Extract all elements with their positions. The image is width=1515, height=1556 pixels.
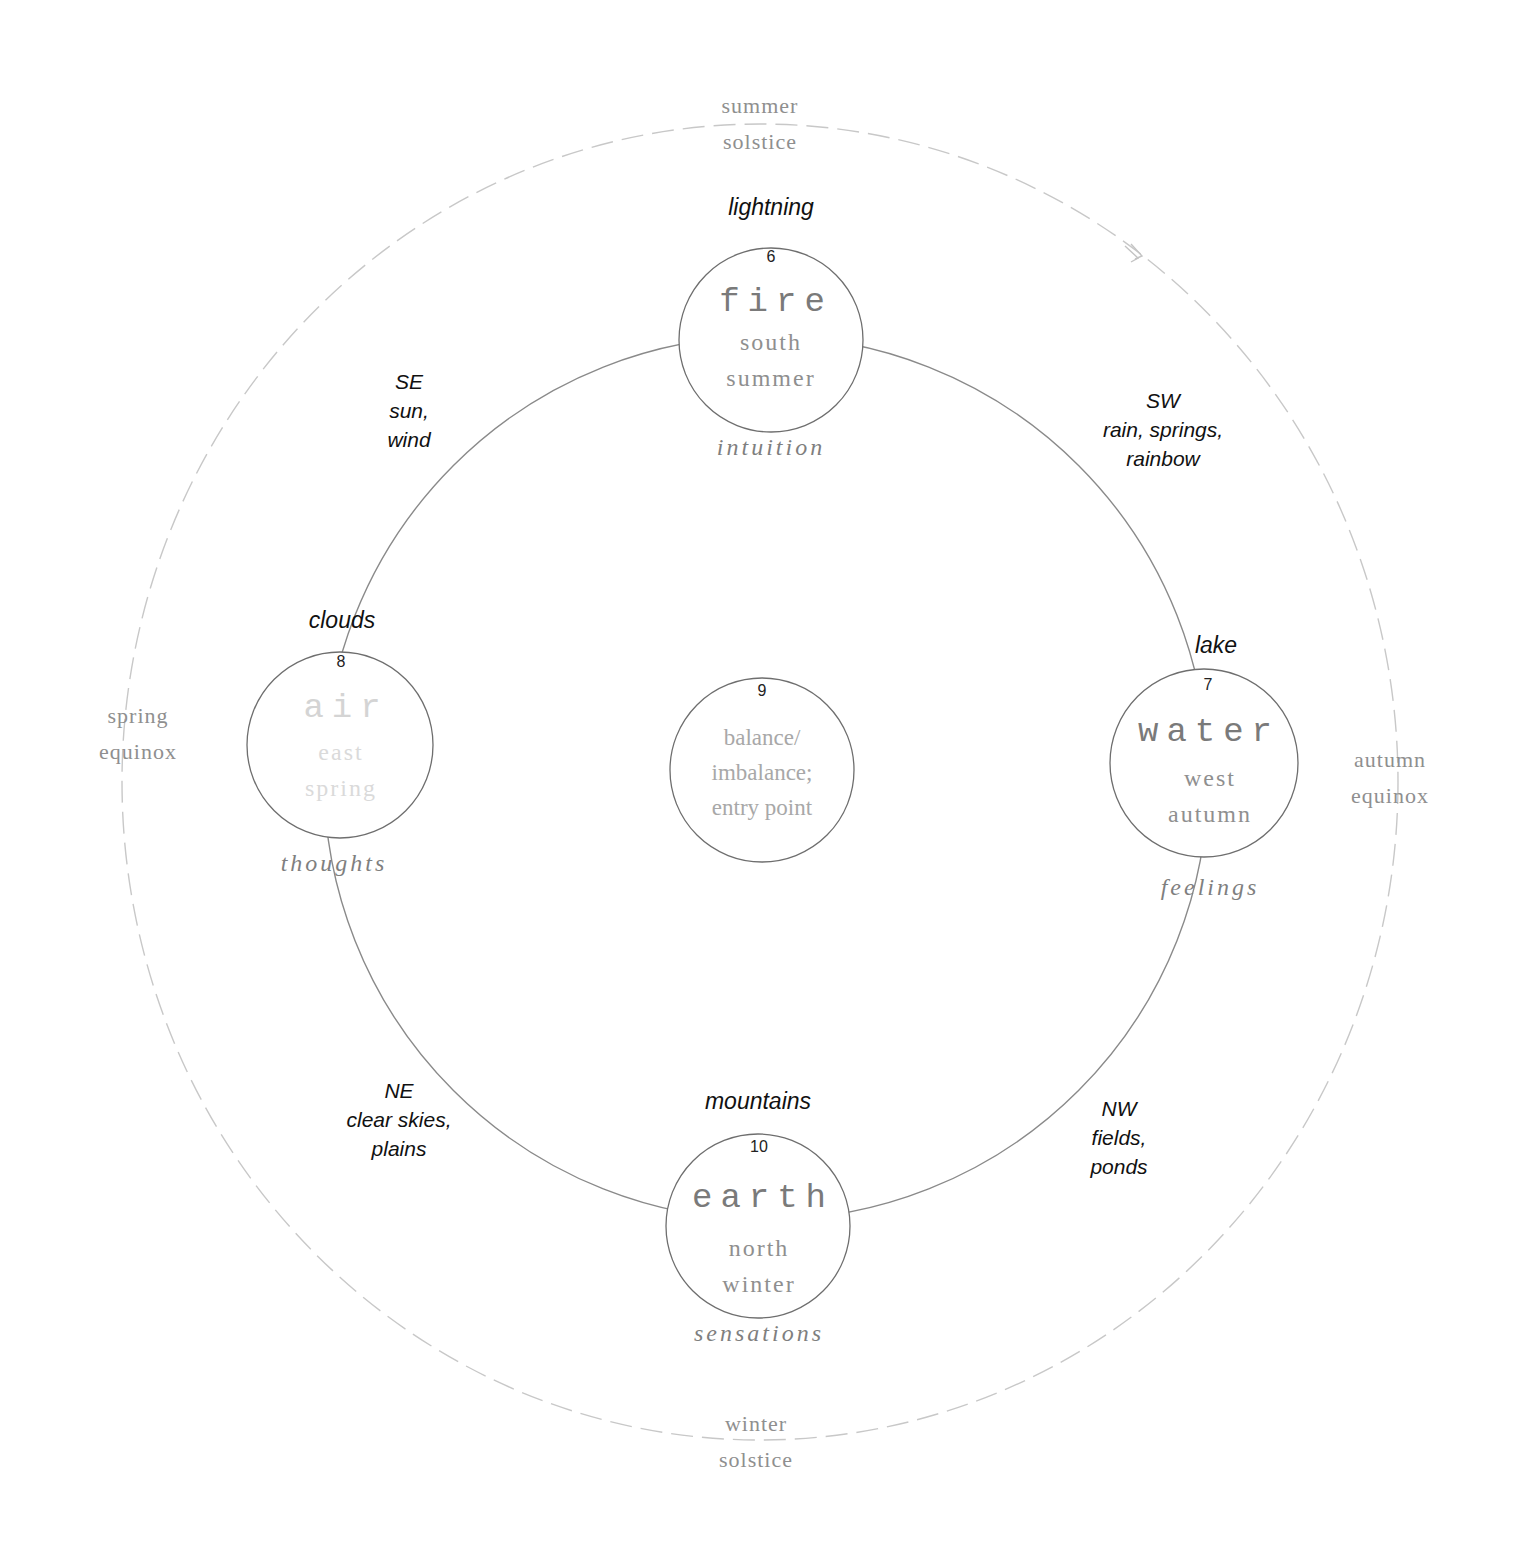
label-line: solstice bbox=[696, 1442, 816, 1478]
direction-line: fields, bbox=[1069, 1123, 1169, 1152]
earth-node-number: 10 bbox=[739, 1138, 779, 1156]
air-direction-label: east bbox=[261, 734, 421, 770]
ne-label: NE clear skies, plains bbox=[329, 1076, 469, 1163]
center-line: balance/ bbox=[682, 720, 842, 755]
water-function-label: feelings bbox=[1130, 874, 1290, 901]
direction-code: NE bbox=[329, 1076, 469, 1105]
fire-element-label: fire bbox=[691, 282, 861, 322]
direction-line: plains bbox=[329, 1134, 469, 1163]
direction-line: rain, springs, bbox=[1083, 415, 1243, 444]
label-line: equinox bbox=[1330, 778, 1450, 814]
fire-feature-label: lightning bbox=[696, 194, 846, 221]
label-line: winter bbox=[696, 1406, 816, 1442]
summer-solstice-label: summer solstice bbox=[700, 88, 820, 160]
earth-element-label: earth bbox=[668, 1178, 858, 1218]
air-function-label: thoughts bbox=[254, 850, 414, 877]
air-element-label: air bbox=[261, 688, 431, 728]
direction-line: wind bbox=[349, 425, 469, 454]
earth-season-label: winter bbox=[679, 1266, 839, 1302]
spring-equinox-label: spring equinox bbox=[78, 698, 198, 770]
earth-function-label: sensations bbox=[679, 1320, 839, 1347]
fire-node-number: 6 bbox=[751, 248, 791, 266]
label-line: autumn bbox=[1330, 742, 1450, 778]
label-line: summer bbox=[700, 88, 820, 124]
label-line: equinox bbox=[78, 734, 198, 770]
direction-line: ponds bbox=[1069, 1152, 1169, 1181]
air-season-label: spring bbox=[261, 770, 421, 806]
earth-direction-label: north bbox=[679, 1230, 839, 1266]
direction-line: rainbow bbox=[1083, 444, 1243, 473]
water-element-label: water bbox=[1114, 712, 1304, 752]
direction-line: sun, bbox=[349, 396, 469, 425]
direction-code: SE bbox=[349, 367, 469, 396]
direction-line: clear skies, bbox=[329, 1105, 469, 1134]
fire-function-label: intuition bbox=[691, 434, 851, 461]
air-feature-label: clouds bbox=[282, 607, 402, 634]
clockwise-arrow-icon bbox=[1125, 244, 1142, 262]
winter-solstice-label: winter solstice bbox=[696, 1406, 816, 1478]
center-line: imbalance; bbox=[682, 755, 842, 790]
autumn-equinox-label: autumn equinox bbox=[1330, 742, 1450, 814]
direction-code: NW bbox=[1069, 1094, 1169, 1123]
sw-label: SW rain, springs, rainbow bbox=[1083, 386, 1243, 473]
earth-feature-label: mountains bbox=[668, 1088, 848, 1115]
label-line: spring bbox=[78, 698, 198, 734]
fire-direction-label: south bbox=[691, 324, 851, 360]
water-node-number: 7 bbox=[1188, 676, 1228, 694]
fire-season-label: summer bbox=[691, 360, 851, 396]
se-label: SE sun, wind bbox=[349, 367, 469, 454]
direction-code: SW bbox=[1083, 386, 1243, 415]
nw-label: NW fields, ponds bbox=[1069, 1094, 1169, 1181]
water-season-label: autumn bbox=[1130, 796, 1290, 832]
water-direction-label: west bbox=[1130, 760, 1290, 796]
center-node-text: balance/ imbalance; entry point bbox=[682, 720, 842, 825]
water-feature-label: lake bbox=[1166, 632, 1266, 659]
center-node-number: 9 bbox=[742, 682, 782, 700]
label-line: solstice bbox=[700, 124, 820, 160]
center-line: entry point bbox=[682, 790, 842, 825]
air-node-number: 8 bbox=[321, 653, 361, 671]
